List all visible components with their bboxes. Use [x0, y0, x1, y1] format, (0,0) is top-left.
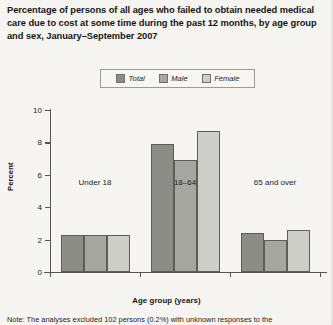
x-tick-mark — [230, 272, 231, 277]
bar-male-2[interactable] — [174, 160, 197, 272]
bar-male-3[interactable] — [264, 240, 287, 272]
x-tick-mark — [140, 272, 141, 277]
y-tick-label: 8 — [38, 138, 42, 147]
y-tick-mark — [45, 175, 50, 176]
y-tick-label: 6 — [38, 170, 42, 179]
legend-label-female: Female — [214, 74, 239, 83]
bar-total-1[interactable] — [61, 235, 84, 272]
y-tick-label: 0 — [38, 268, 42, 277]
x-axis-title: Age group (years) — [0, 296, 333, 305]
y-tick-label: 10 — [33, 106, 42, 115]
y-tick-mark — [45, 240, 50, 241]
y-tick-mark — [45, 207, 50, 208]
legend-label-total: Total — [129, 74, 145, 83]
figure-footnote: Note: The analyses excluded 102 persons … — [7, 315, 329, 325]
legend-item-male[interactable]: Male — [159, 74, 188, 83]
y-tick-mark — [45, 142, 50, 143]
x-group-label-2: 18–64 — [174, 178, 196, 187]
x-group-label-1: Under 18 — [79, 178, 112, 187]
legend-item-female[interactable]: Female — [202, 74, 240, 83]
bar-total-2[interactable] — [151, 144, 174, 272]
figure-title: Percentage of persons of all ages who fa… — [7, 4, 327, 44]
x-tick-mark — [320, 272, 321, 277]
y-tick-mark — [45, 110, 50, 111]
legend-swatch-female — [202, 74, 211, 83]
y-axis-title: Percent — [6, 162, 15, 191]
y-tick-label: 2 — [38, 235, 42, 244]
figure-panel: Percentage of persons of all ages who fa… — [0, 0, 333, 325]
plot-area: 0246810 — [50, 110, 320, 272]
bar-male-1[interactable] — [84, 235, 107, 272]
bar-female-2[interactable] — [197, 131, 220, 272]
legend-swatch-male — [159, 74, 168, 83]
x-tick-mark — [50, 272, 51, 277]
legend-label-male: Male — [171, 74, 187, 83]
y-tick-label: 4 — [38, 203, 42, 212]
bar-female-3[interactable] — [287, 230, 310, 272]
chart-legend: Total Male Female — [100, 69, 255, 88]
legend-swatch-total — [116, 74, 125, 83]
x-group-label-3: 65 and over — [254, 178, 296, 187]
legend-item-total[interactable]: Total — [116, 74, 145, 83]
bar-total-3[interactable] — [241, 233, 264, 272]
x-axis-line — [44, 272, 327, 273]
bar-female-1[interactable] — [107, 235, 130, 272]
